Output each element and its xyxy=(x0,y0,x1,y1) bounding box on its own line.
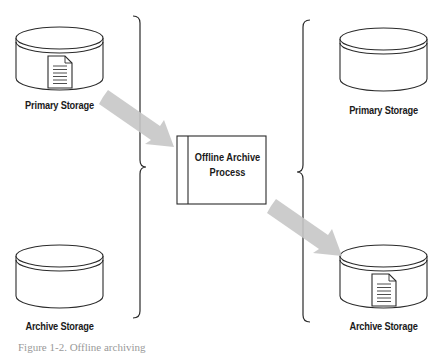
process-label-line1: Offline Archive xyxy=(194,150,262,165)
right-primary-storage-cylinder xyxy=(340,28,427,91)
left-primary-storage-label: Primary Storage xyxy=(16,99,103,111)
arrow-process-to-archive xyxy=(267,199,342,256)
document-icon xyxy=(372,274,396,306)
right-group-brace xyxy=(297,20,310,322)
process-label-line2: Process xyxy=(194,165,262,180)
arrow-primary-to-process xyxy=(99,90,174,147)
left-group-brace xyxy=(133,16,146,318)
left-archive-storage-cylinder xyxy=(16,245,103,308)
figure-caption: Figure 1-2. Offline archiving xyxy=(18,341,146,353)
process-label: Offline Archive Process xyxy=(194,150,262,180)
document-icon xyxy=(48,56,72,88)
right-primary-storage-label: Primary Storage xyxy=(340,104,427,116)
left-archive-storage-label: Archive Storage xyxy=(16,320,103,332)
right-archive-storage-label: Archive Storage xyxy=(340,320,427,332)
